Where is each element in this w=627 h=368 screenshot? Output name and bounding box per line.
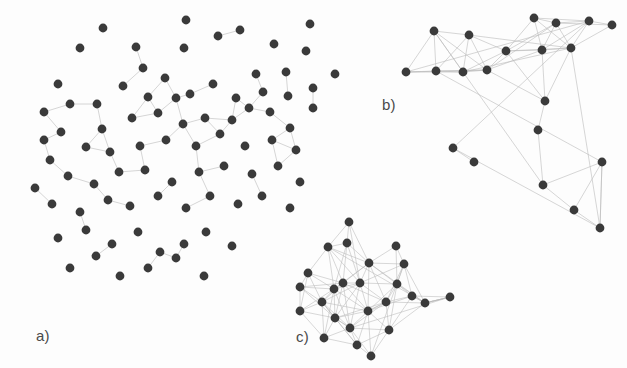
graph-node: [306, 20, 315, 29]
graph-node: [136, 142, 145, 151]
graph-node: [465, 31, 474, 40]
graph-edge: [368, 311, 371, 356]
graph-node: [296, 283, 305, 292]
graph-edge: [506, 18, 534, 51]
graph-node: [534, 126, 543, 135]
graph-edge: [412, 296, 450, 297]
graph-node: [64, 172, 73, 181]
graph-node: [365, 259, 374, 268]
graph-node: [596, 224, 605, 233]
graph-node: [139, 64, 148, 73]
graph-edge: [545, 48, 571, 101]
graph-node: [128, 114, 137, 123]
graph-node: [541, 97, 550, 106]
graph-edge: [600, 162, 602, 228]
nodes-layer: [31, 14, 617, 361]
graph-node: [309, 84, 318, 93]
graph-node: [76, 208, 85, 217]
graph-node: [82, 226, 91, 235]
graph-node: [266, 108, 275, 117]
graph-node: [385, 326, 394, 335]
graph-node: [134, 228, 143, 237]
graph-node: [331, 314, 340, 323]
graph-edge: [389, 296, 412, 330]
graph-node: [182, 16, 191, 25]
graph-node: [144, 264, 153, 273]
graph-node: [46, 156, 55, 165]
graph-edge: [543, 162, 602, 185]
graph-node: [408, 292, 417, 301]
graph-node: [108, 240, 117, 249]
graph-edge: [574, 210, 600, 228]
graph-node: [382, 298, 391, 307]
graph-edge: [371, 264, 404, 356]
graph-node: [585, 17, 594, 26]
graph-node: [296, 178, 305, 187]
graph-node: [82, 143, 91, 152]
graph-edge: [349, 222, 369, 263]
graph-node: [330, 285, 339, 294]
graph-node: [367, 352, 376, 361]
graph-node: [270, 40, 279, 49]
panel-label-c: c): [296, 328, 309, 345]
graph-node: [320, 334, 329, 343]
graph-node: [66, 100, 75, 109]
graph-node: [343, 239, 352, 248]
graph-node: [241, 142, 250, 151]
graph-node: [392, 242, 401, 251]
graph-node: [259, 88, 268, 97]
graph-node: [220, 162, 229, 171]
graph-edge: [434, 31, 543, 185]
graph-node: [92, 252, 101, 261]
graph-node: [459, 68, 468, 77]
graph-edge: [487, 50, 542, 70]
graph-node: [364, 307, 373, 316]
graph-edge: [350, 328, 371, 356]
graph-node: [393, 280, 402, 289]
graph-node: [186, 90, 195, 99]
graph-node: [90, 180, 99, 189]
graph-edge: [538, 130, 543, 185]
graph-edge: [335, 311, 368, 318]
panel-label-a: a): [36, 327, 50, 344]
graph-node: [54, 80, 63, 89]
graph-edge: [571, 48, 600, 228]
graph-node: [502, 47, 511, 56]
graph-node: [116, 272, 125, 281]
network-graph-canvas: [0, 0, 627, 368]
graph-node: [40, 108, 49, 117]
graph-node: [206, 192, 215, 201]
graph-node: [400, 260, 409, 269]
graph-node: [432, 67, 441, 76]
graph-node: [324, 243, 333, 252]
graph-node: [132, 43, 141, 52]
graph-node: [248, 170, 257, 179]
graph-node: [201, 114, 210, 123]
graph-node: [449, 144, 458, 153]
panel-label-b: b): [382, 96, 396, 113]
graph-node: [286, 204, 295, 213]
graph-node: [274, 162, 283, 171]
graph-node: [309, 104, 318, 113]
graph-node: [106, 148, 115, 157]
graph-node: [567, 44, 576, 53]
graph-node: [421, 299, 430, 308]
graph-node: [99, 24, 108, 33]
graph-edge: [389, 303, 425, 330]
graph-node: [430, 27, 439, 36]
graph-node: [31, 184, 40, 193]
graph-edge: [308, 247, 328, 273]
graph-node: [57, 128, 66, 137]
graph-node: [539, 181, 548, 190]
graph-edge: [534, 18, 589, 21]
graph-node: [179, 120, 188, 129]
graph-node: [161, 74, 170, 83]
graph-node: [98, 125, 107, 134]
graph-edge: [538, 101, 545, 130]
graph-node: [104, 196, 113, 205]
graph-node: [93, 100, 102, 109]
graph-node: [232, 94, 241, 103]
graph-edge: [543, 185, 574, 210]
graph-node: [304, 269, 313, 278]
graph-node: [214, 32, 223, 41]
